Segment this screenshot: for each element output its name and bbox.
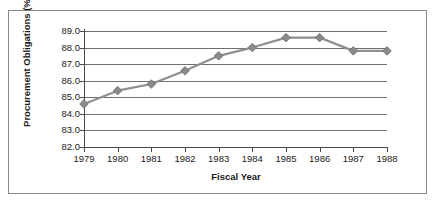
data-point-marker [248,43,257,52]
y-tick-mark [80,48,84,49]
y-tick-mark [80,64,84,65]
chart-figure: Procurement Obligations (%) 89.088.087.0… [0,0,441,205]
x-tick-mark [353,148,354,152]
data-point-marker [181,66,190,75]
data-point-marker [214,52,223,61]
y-tick-mark [80,81,84,82]
data-point-marker [282,33,291,42]
x-tick-mark [219,148,220,152]
series-line-path [84,38,387,104]
x-tick-mark [151,148,152,152]
y-tick-mark [80,31,84,32]
data-point-marker [80,100,89,109]
y-tick-mark [80,130,84,131]
x-tick-mark [118,148,119,152]
y-tick-mark [80,97,84,98]
data-point-marker [315,33,324,42]
series-marker-group [80,33,392,108]
x-axis-title: Fiscal Year [84,171,388,182]
data-point-marker [349,47,358,56]
x-tick-mark [286,148,287,152]
data-point-marker [113,86,122,95]
x-tick-mark [84,148,85,152]
x-tick-mark [252,148,253,152]
data-point-marker [383,47,392,56]
x-tick-mark [387,148,388,152]
x-tick-mark [185,148,186,152]
data-point-marker [147,80,156,89]
y-tick-mark [80,114,84,115]
x-tick-mark [320,148,321,152]
x-tick-label: 1988 [367,153,407,164]
